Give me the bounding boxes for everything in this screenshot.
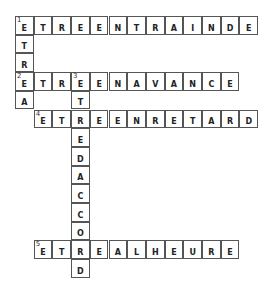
cell-letter: D xyxy=(240,117,257,126)
crossword-cell[interactable]: V xyxy=(146,72,165,91)
crossword-cell[interactable]: A xyxy=(71,166,90,185)
cell-letter: R xyxy=(53,80,70,89)
crossword-cell[interactable]: E xyxy=(90,110,109,129)
cell-letter: E xyxy=(72,80,89,89)
cell-letter: I xyxy=(184,24,201,33)
crossword-cell[interactable]: T xyxy=(52,110,71,129)
crossword-cell[interactable]: T xyxy=(127,16,146,35)
cell-letter: T xyxy=(72,98,89,107)
crossword-cell[interactable]: R xyxy=(52,16,71,35)
crossword-cell[interactable]: E xyxy=(221,72,240,91)
crossword-cell[interactable]: R xyxy=(71,240,90,259)
crossword-grid: 1ETREENTRAINDETR2EATR3EENAVANCETREDACCOR… xyxy=(15,16,259,278)
cell-letter: E xyxy=(110,117,127,126)
crossword-cell[interactable]: N xyxy=(109,72,128,91)
crossword-cell[interactable]: 2E xyxy=(15,72,34,91)
cell-letter: H xyxy=(147,248,164,257)
crossword-cell[interactable]: E xyxy=(165,110,184,129)
crossword-cell[interactable]: 4E xyxy=(34,110,53,129)
cell-letter: N xyxy=(184,80,201,89)
crossword-cell[interactable]: E xyxy=(71,128,90,147)
cell-letter: E xyxy=(91,24,108,33)
cell-letter: E xyxy=(91,248,108,257)
cell-letter: E xyxy=(222,248,239,257)
crossword-cell[interactable]: R xyxy=(146,16,165,35)
crossword-cell[interactable]: T xyxy=(34,72,53,91)
crossword-cell[interactable]: A xyxy=(127,72,146,91)
cell-letter: N xyxy=(128,117,145,126)
crossword-cell[interactable]: E xyxy=(90,240,109,259)
crossword-cell[interactable]: A xyxy=(15,91,34,110)
crossword-cell[interactable]: E xyxy=(165,240,184,259)
crossword-cell[interactable]: T xyxy=(15,35,34,54)
cell-letter: E xyxy=(72,24,89,33)
crossword-cell[interactable]: U xyxy=(183,240,202,259)
crossword-cell[interactable]: R xyxy=(71,110,90,129)
crossword-cell[interactable]: E xyxy=(221,240,240,259)
crossword-cell[interactable]: L xyxy=(127,240,146,259)
cell-letter: E xyxy=(91,80,108,89)
crossword-cell[interactable]: R xyxy=(202,240,221,259)
cell-letter: C xyxy=(203,80,220,89)
crossword-cell[interactable]: N xyxy=(202,16,221,35)
crossword-cell[interactable]: A xyxy=(109,240,128,259)
crossword-cell[interactable]: E xyxy=(71,16,90,35)
crossword-cell[interactable]: R xyxy=(146,110,165,129)
crossword-cell[interactable]: T xyxy=(183,110,202,129)
crossword-cell[interactable]: T xyxy=(34,16,53,35)
cell-letter: E xyxy=(166,248,183,257)
cell-letter: A xyxy=(128,80,145,89)
cell-letter: N xyxy=(110,80,127,89)
cell-letter: D xyxy=(222,24,239,33)
cell-letter: O xyxy=(72,229,89,238)
crossword-cell[interactable]: O xyxy=(71,222,90,241)
crossword-cell[interactable]: A xyxy=(165,16,184,35)
crossword-cell[interactable]: E xyxy=(109,110,128,129)
crossword-cell[interactable]: R xyxy=(52,72,71,91)
crossword-cell[interactable]: D xyxy=(239,110,258,129)
cell-letter: C xyxy=(72,211,89,220)
cell-letter: R xyxy=(147,117,164,126)
cell-letter: U xyxy=(184,248,201,257)
crossword-cell[interactable]: N xyxy=(127,110,146,129)
cell-letter: E xyxy=(16,24,33,33)
crossword-cell[interactable]: T xyxy=(71,91,90,110)
cell-letter: E xyxy=(35,117,52,126)
crossword-cell[interactable]: R xyxy=(221,110,240,129)
crossword-cell[interactable]: C xyxy=(71,184,90,203)
cell-letter: E xyxy=(72,136,89,145)
crossword-cell[interactable]: 1E xyxy=(15,16,34,35)
cell-letter: T xyxy=(184,117,201,126)
cell-letter: E xyxy=(222,80,239,89)
cell-letter: R xyxy=(16,61,33,70)
cell-letter: A xyxy=(166,80,183,89)
crossword-cell[interactable]: N xyxy=(109,16,128,35)
crossword-cell[interactable]: N xyxy=(183,72,202,91)
cell-letter: E xyxy=(240,24,257,33)
cell-letter: A xyxy=(16,98,33,107)
crossword-cell[interactable]: E xyxy=(239,16,258,35)
cell-letter: E xyxy=(35,248,52,257)
crossword-cell[interactable]: C xyxy=(71,203,90,222)
crossword-cell[interactable]: A xyxy=(202,110,221,129)
crossword-cell[interactable]: E xyxy=(90,16,109,35)
cell-letter: T xyxy=(35,80,52,89)
cell-letter: A xyxy=(166,24,183,33)
crossword-cell[interactable]: E xyxy=(90,72,109,91)
crossword-cell[interactable]: A xyxy=(165,72,184,91)
crossword-cell[interactable]: R xyxy=(15,53,34,72)
crossword-cell[interactable]: D xyxy=(221,16,240,35)
cell-letter: L xyxy=(128,248,145,257)
cell-letter: D xyxy=(72,155,89,164)
cell-letter: R xyxy=(72,117,89,126)
crossword-cell[interactable]: T xyxy=(52,240,71,259)
cell-letter: E xyxy=(91,117,108,126)
crossword-cell[interactable]: 5E xyxy=(34,240,53,259)
crossword-cell[interactable]: C xyxy=(202,72,221,91)
crossword-cell[interactable]: H xyxy=(146,240,165,259)
cell-letter: N xyxy=(110,24,127,33)
crossword-cell[interactable]: D xyxy=(71,259,90,278)
crossword-cell[interactable]: D xyxy=(71,147,90,166)
crossword-cell[interactable]: 3E xyxy=(71,72,90,91)
crossword-cell[interactable]: I xyxy=(183,16,202,35)
